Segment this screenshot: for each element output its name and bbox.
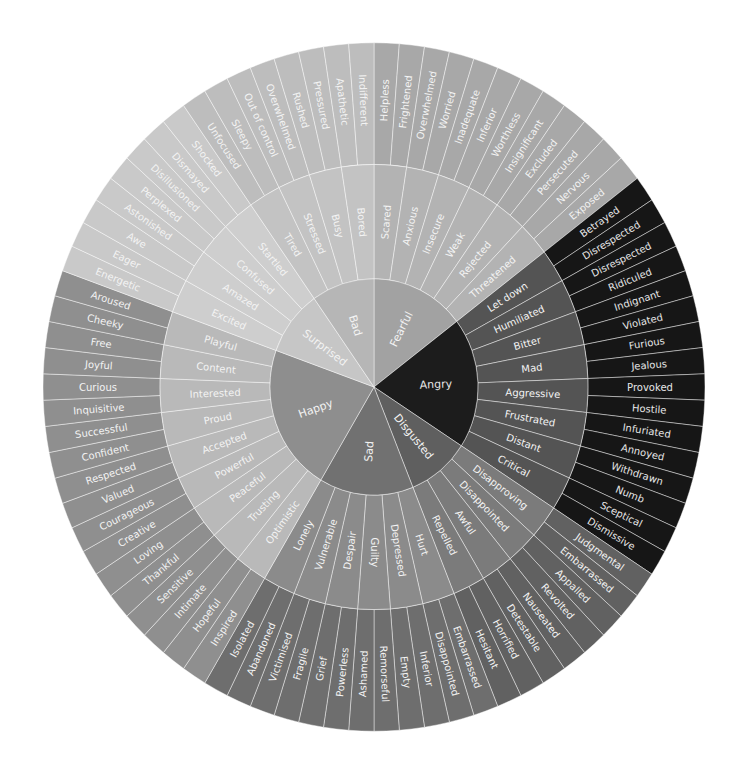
feeling-label-bored: Bored bbox=[355, 207, 368, 237]
feeling-label-helpless: Helpless bbox=[378, 79, 391, 122]
feeling-label-guilty: Guilty bbox=[369, 538, 380, 568]
feeling-label-remorseful: Remorseful bbox=[378, 645, 391, 702]
feelings-wheel: HelplessFrightenedScaredOverwhelmedWorri… bbox=[0, 0, 748, 776]
feelings-wheel-diagram: HelplessFrightenedScaredOverwhelmedWorri… bbox=[0, 0, 748, 776]
feeling-label-provoked: Provoked bbox=[627, 382, 673, 393]
core-emotion-label-sad: Sad bbox=[362, 440, 377, 462]
feeling-label-aggressive: Aggressive bbox=[505, 387, 560, 400]
feeling-label-ashamed: Ashamed bbox=[357, 650, 370, 697]
feeling-label-curious: Curious bbox=[79, 382, 117, 393]
wheel-segments bbox=[43, 43, 705, 731]
feeling-label-indifferent: Indifferent bbox=[357, 74, 370, 126]
feeling-label-interested: Interested bbox=[189, 387, 240, 400]
feeling-label-joyful: Joyful bbox=[84, 358, 113, 371]
core-emotion-label-angry: Angry bbox=[419, 377, 452, 391]
